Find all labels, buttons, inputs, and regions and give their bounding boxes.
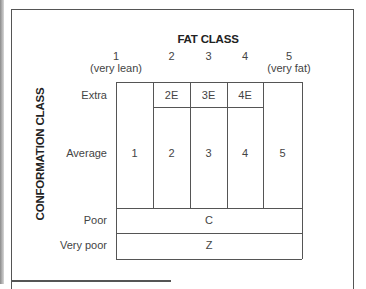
fat-class-number: 3 xyxy=(190,50,227,62)
cell-3e: 3E xyxy=(190,89,227,101)
page-edge-shadow xyxy=(0,0,4,284)
fat-class-description: (very fat) xyxy=(253,62,325,74)
fat-class-header-1: 1 (very lean) xyxy=(86,50,146,74)
grid-top-line xyxy=(116,82,302,83)
row-label-extra: Extra xyxy=(81,89,107,101)
cell-c: C xyxy=(116,214,302,226)
conformation-class-axis-label: CONFORMATION CLASS xyxy=(34,88,46,221)
cell-2: 2 xyxy=(153,147,190,159)
row-label-average: Average xyxy=(66,147,107,159)
cell-1: 1 xyxy=(116,147,153,159)
fat-class-header-5: 5 (very fat) xyxy=(253,50,325,74)
grid-col-line-5 xyxy=(263,82,264,208)
grid-poor-top-line xyxy=(116,208,302,209)
fat-class-header-2: 2 xyxy=(153,50,190,62)
cell-2e: 2E xyxy=(153,89,190,101)
cell-3: 3 xyxy=(190,147,227,159)
grid-very-poor-top-line xyxy=(116,233,302,234)
row-label-poor: Poor xyxy=(84,214,107,226)
frame-bottom-border xyxy=(11,280,171,282)
fat-class-description: (very lean) xyxy=(86,62,146,74)
fat-class-number: 5 xyxy=(253,50,325,62)
grid-left-line xyxy=(116,82,117,259)
grid-extra-divider xyxy=(153,107,263,108)
grid-bottom-line xyxy=(116,259,302,260)
fat-class-title: FAT CLASS xyxy=(153,33,263,45)
fat-class-header-3: 3 xyxy=(190,50,227,62)
cell-z: Z xyxy=(116,239,302,251)
grid-right-line xyxy=(302,82,303,259)
cell-4e: 4E xyxy=(227,89,263,101)
row-label-very-poor: Very poor xyxy=(60,239,107,251)
cell-4: 4 xyxy=(227,147,263,159)
fat-class-number: 2 xyxy=(153,50,190,62)
cell-5: 5 xyxy=(263,147,302,159)
fat-class-number: 1 xyxy=(86,50,146,62)
